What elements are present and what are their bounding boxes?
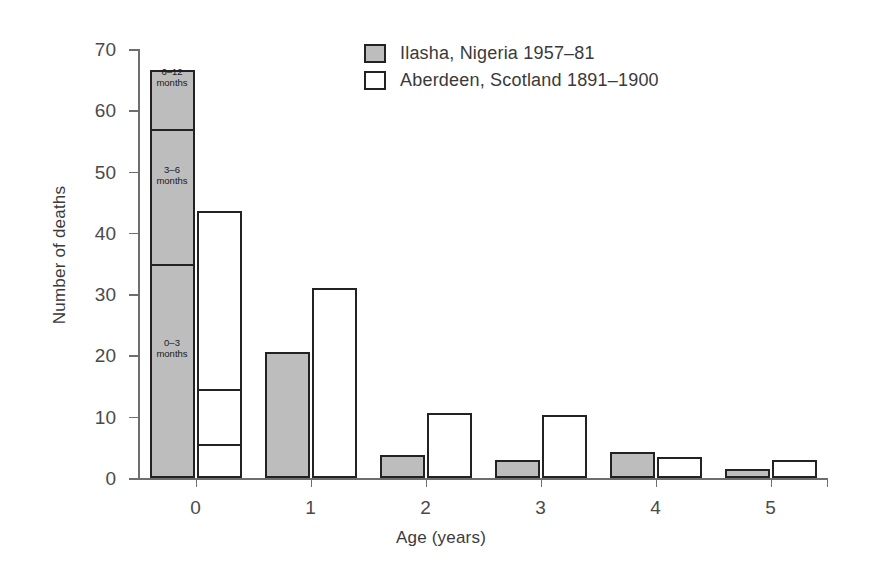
x-tick-label-0: 0 — [190, 497, 201, 519]
x-tick-3 — [541, 478, 543, 487]
chart-container: Number of deaths Age (years) 01020304050… — [0, 0, 882, 571]
legend-item-2: Aberdeen, Scotland 1891–1900 — [364, 67, 659, 94]
segment-label-ilasha-0: 0–3months — [152, 337, 193, 359]
x-axis-title: Age (years) — [0, 528, 882, 548]
y-tick-20: 20 — [129, 355, 138, 357]
x-axis-line — [138, 478, 828, 480]
y-tick-label-0: 0 — [105, 468, 116, 490]
y-tick-40: 40 — [129, 233, 138, 235]
bar-aberdeen-age-1 — [312, 288, 357, 478]
bar-aberdeen-age-2 — [427, 413, 472, 478]
segment-label-unit: months — [152, 175, 193, 186]
y-tick-label-70: 70 — [95, 39, 116, 61]
y-tick-label-10: 10 — [95, 407, 116, 429]
bar-aberdeen-age-5 — [772, 460, 817, 478]
bar-ilasha-age-3 — [495, 460, 540, 478]
bar-aberdeen-age-4 — [657, 457, 702, 478]
segment-label-ilasha-1: 3–6months — [152, 164, 193, 186]
segment-divider-aberdeen-1 — [199, 389, 240, 391]
x-tick-2 — [426, 478, 428, 487]
y-axis-line — [138, 49, 140, 478]
y-tick-30: 30 — [129, 294, 138, 296]
legend-label-1: Ilasha, Nigeria 1957–81 — [400, 43, 595, 64]
x-tick-5 — [771, 478, 773, 487]
bar-ilasha-age-4 — [610, 452, 655, 478]
x-tick-label-5: 5 — [765, 497, 776, 519]
y-tick-0: 0 — [129, 478, 138, 480]
segment-label-unit: months — [152, 77, 193, 88]
segment-divider-ilasha-0 — [152, 264, 193, 266]
y-tick-70: 70 — [129, 49, 138, 51]
bar-aberdeen-age-0 — [197, 211, 242, 478]
legend-label-2: Aberdeen, Scotland 1891–1900 — [400, 70, 659, 91]
legend-swatch-white — [364, 71, 386, 90]
legend-swatch-gray — [364, 44, 386, 63]
y-tick-label-30: 30 — [95, 284, 116, 306]
y-tick-label-20: 20 — [95, 345, 116, 367]
segment-label-unit: months — [152, 348, 193, 359]
x-tick-label-2: 2 — [420, 497, 431, 519]
segment-label-range: 3–6 — [152, 164, 193, 175]
segment-label-ilasha-2: 6–12months — [152, 66, 193, 88]
segment-divider-ilasha-1 — [152, 129, 193, 131]
y-tick-10: 10 — [129, 417, 138, 419]
x-tick-label-4: 4 — [650, 497, 661, 519]
legend-item-1: Ilasha, Nigeria 1957–81 — [364, 40, 659, 67]
y-tick-60: 60 — [129, 110, 138, 112]
bar-ilasha-age-1 — [265, 352, 310, 478]
x-tick-0 — [196, 478, 198, 487]
y-tick-50: 50 — [129, 172, 138, 174]
x-tick-label-3: 3 — [535, 497, 546, 519]
bar-aberdeen-age-3 — [542, 415, 587, 478]
x-tick-1 — [311, 478, 313, 487]
segment-label-range: 0–3 — [152, 337, 193, 348]
x-tick-4 — [656, 478, 658, 487]
bar-ilasha-age-0: 0–3months3–6months6–12months — [150, 70, 195, 478]
y-tick-label-60: 60 — [95, 100, 116, 122]
segment-label-range: 6–12 — [152, 66, 193, 77]
y-tick-label-40: 40 — [95, 223, 116, 245]
bar-ilasha-age-5 — [725, 469, 770, 478]
chart-legend: Ilasha, Nigeria 1957–81Aberdeen, Scotlan… — [364, 40, 659, 94]
bar-ilasha-age-2 — [380, 455, 425, 478]
y-tick-label-50: 50 — [95, 162, 116, 184]
plot-area: 010203040506070 012345 0–3months3–6month… — [138, 45, 828, 478]
x-tick-end — [827, 478, 829, 487]
x-tick-label-1: 1 — [305, 497, 316, 519]
y-axis-title: Number of deaths — [50, 40, 76, 470]
segment-divider-aberdeen-0 — [199, 444, 240, 446]
